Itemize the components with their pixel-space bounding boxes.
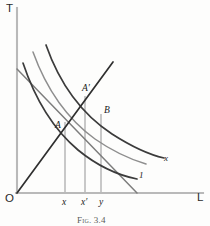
tick-label-x: x xyxy=(62,198,66,208)
axis-label-horizontal: L xyxy=(197,192,203,204)
figure-caption: Fig. 3.4 xyxy=(77,216,106,225)
tick-label-y: y xyxy=(99,198,103,208)
tick-label-x-prime: x′ xyxy=(81,198,87,208)
point-label-a-prime: A′ xyxy=(82,84,90,94)
curve-label-lower: 1 xyxy=(139,171,144,180)
indifference-curve-x xyxy=(46,45,164,158)
figure-container: T L O A A′ B x 1 x x′ y Fig. 3.4 xyxy=(0,0,210,226)
axis-label-vertical: T xyxy=(6,3,13,15)
point-label-a: A xyxy=(55,121,61,131)
point-label-b: B xyxy=(104,106,110,116)
curve-label-upper: x xyxy=(164,154,168,163)
axis-label-origin: O xyxy=(5,193,14,205)
